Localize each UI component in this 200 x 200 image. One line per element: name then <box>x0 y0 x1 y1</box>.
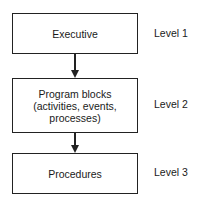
arrowhead-1 <box>71 70 79 78</box>
arrow-2 <box>74 132 76 146</box>
arrow-1 <box>74 53 76 71</box>
node-program-blocks: Program blocks (activities, events, proc… <box>12 78 138 133</box>
level-label-2: Level 2 <box>154 98 188 110</box>
node-label: Executive <box>52 28 98 40</box>
node-procedures: Procedures <box>12 153 138 194</box>
level-label-1: Level 1 <box>154 27 188 39</box>
node-executive: Executive <box>12 13 138 54</box>
level-label-3: Level 3 <box>154 166 188 178</box>
node-label: Program blocks (activities, events, proc… <box>33 88 116 124</box>
arrowhead-2 <box>71 145 79 153</box>
node-label: Procedures <box>48 168 102 180</box>
